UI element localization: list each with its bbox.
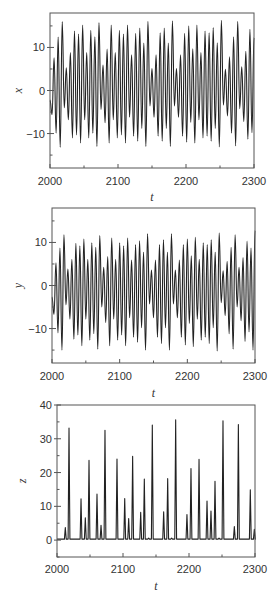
plot-frame — [50, 13, 254, 168]
x-tick-label: 2300 — [242, 175, 266, 187]
panel-y: 2000210022002300100−10ty — [11, 208, 267, 400]
x-axis-label: t — [152, 386, 156, 400]
x-tick-label: 2300 — [243, 563, 267, 575]
y-tick-label: 20 — [40, 467, 52, 479]
y-tick-label: −10 — [26, 128, 45, 140]
y-tick-label: 0 — [46, 534, 52, 546]
series-line — [52, 230, 255, 351]
lorenz-time-series-figure: 2000210022002300100−10tx 200021002200230… — [0, 0, 279, 602]
y-tick-label: 0 — [41, 280, 47, 292]
y-axis-label: y — [11, 282, 25, 289]
x-axis-label: t — [150, 190, 154, 204]
y-tick-label: 0 — [39, 85, 45, 97]
y-axis-label: x — [11, 87, 25, 94]
x-axis-label: t — [154, 579, 158, 593]
x-tick-label: 2100 — [106, 175, 130, 187]
series-line — [50, 20, 254, 147]
x-tick-label: 2200 — [177, 563, 201, 575]
y-tick-label: 10 — [35, 236, 47, 248]
y-tick-label: 40 — [40, 399, 52, 411]
x-tick-label: 2100 — [107, 370, 131, 382]
x-tick-label: 2100 — [111, 563, 135, 575]
plot-frame — [57, 405, 255, 557]
series-line — [57, 420, 255, 539]
x-tick-label: 2000 — [45, 563, 69, 575]
y-axis-label: z — [15, 478, 29, 484]
x-tick-label: 2000 — [40, 370, 64, 382]
y-tick-label: −10 — [28, 323, 47, 335]
y-tick-label: 10 — [33, 41, 45, 53]
x-tick-label: 2200 — [174, 175, 198, 187]
y-tick-label: 10 — [40, 500, 52, 512]
panel-x: 2000210022002300100−10tx — [11, 13, 266, 204]
x-tick-label: 2000 — [38, 175, 62, 187]
panel-z: 2000210022002300403020100tz — [15, 399, 267, 593]
x-tick-label: 2300 — [243, 370, 267, 382]
y-tick-label: 30 — [40, 433, 52, 445]
x-tick-label: 2200 — [175, 370, 199, 382]
